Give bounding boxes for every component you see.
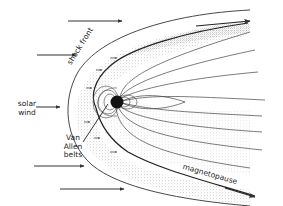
magnetosphere-diagram — [0, 0, 283, 206]
van-allen-belts-label: Van Allen belts — [62, 134, 84, 160]
solar-wind-label-line2: wind — [15, 109, 39, 118]
van-allen-label-line3: belts — [62, 151, 84, 160]
earth — [111, 96, 124, 109]
solar-wind-label: solar wind — [15, 100, 39, 117]
